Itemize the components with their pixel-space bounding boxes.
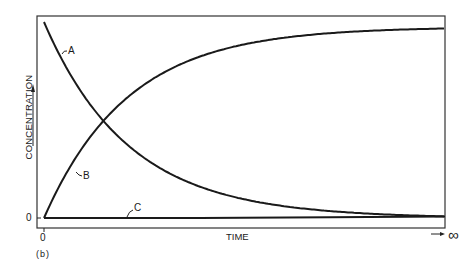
label-b-leader bbox=[76, 172, 82, 176]
y-tick-0: 0 bbox=[26, 213, 32, 223]
x-end-arrowhead-icon bbox=[440, 232, 445, 236]
chart-canvas bbox=[0, 0, 468, 265]
label-a-leader bbox=[62, 51, 67, 54]
x-axis-label: TIME bbox=[226, 232, 249, 242]
infinity-label: ∞ bbox=[448, 227, 459, 242]
curve-label-b: B bbox=[83, 171, 90, 181]
curve-label-c: C bbox=[134, 203, 141, 213]
curve-b bbox=[44, 29, 444, 219]
curve-label-a: A bbox=[68, 46, 75, 56]
y-axis-label: CONCENTRATION bbox=[24, 62, 34, 172]
label-c-leader bbox=[127, 210, 133, 217]
panel-label: (b) bbox=[36, 249, 50, 259]
x-tick-0: 0 bbox=[40, 233, 46, 243]
curve-c bbox=[44, 217, 445, 219]
plot-frame bbox=[37, 16, 445, 228]
